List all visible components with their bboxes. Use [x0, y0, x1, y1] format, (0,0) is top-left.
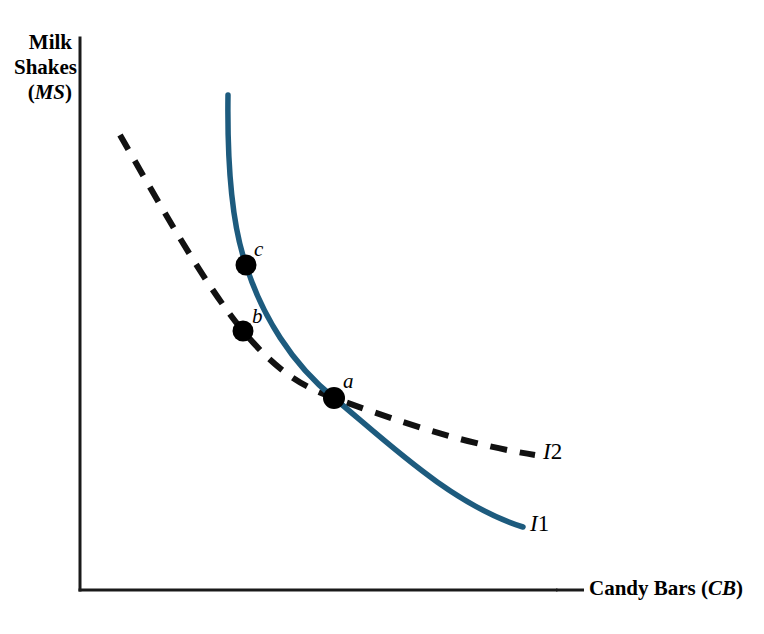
curve-label-i1-italic: I	[530, 511, 538, 536]
x-axis-title-text: Candy Bars	[589, 576, 701, 600]
y-axis-title: Milk Shakes (MS)	[14, 30, 72, 104]
y-axis-title-paren-close: )	[65, 80, 72, 104]
y-axis-title-line1: Milk	[29, 30, 72, 54]
y-axis-title-paren-open: (	[28, 80, 35, 104]
point-label-c: c	[254, 239, 263, 260]
data-point-b	[233, 321, 254, 342]
curve-label-i2-italic: I	[543, 439, 551, 464]
indifference-curve-i2	[120, 135, 535, 455]
y-axis-title-variable: MS	[35, 80, 65, 104]
x-axis-title: Candy Bars (CB)	[589, 576, 743, 601]
indifference-curve-i1	[228, 95, 523, 527]
x-axis-title-paren-close: )	[736, 576, 743, 600]
curve-label-i1: I1	[530, 512, 549, 535]
point-label-a: a	[343, 371, 354, 392]
curve-label-i2: I2	[543, 440, 562, 463]
point-label-b: b	[252, 306, 263, 327]
x-axis-title-variable: CB	[708, 576, 736, 600]
indifference-curve-figure: Milk Shakes (MS) Candy Bars (CB) c b a I…	[0, 0, 764, 634]
curve-label-i2-number: 2	[551, 439, 563, 464]
chart-canvas	[0, 0, 764, 634]
y-axis-title-line2: Shakes	[14, 55, 77, 79]
data-point-a	[323, 387, 345, 409]
x-axis-title-paren-open: (	[701, 576, 708, 600]
curve-label-i1-number: 1	[538, 511, 550, 536]
